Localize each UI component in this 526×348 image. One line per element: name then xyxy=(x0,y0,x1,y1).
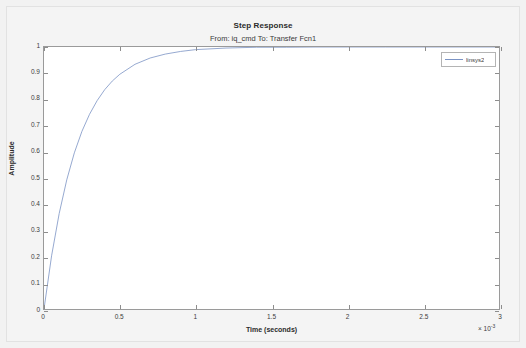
y-tick-mark xyxy=(44,73,48,74)
x-tick-mark xyxy=(425,47,426,51)
y-tick-label: 1 xyxy=(10,43,40,50)
y-tick-mark xyxy=(495,258,499,259)
y-axis-label: Amplitude xyxy=(8,129,15,189)
y-tick-mark xyxy=(495,205,499,206)
x-tick-mark xyxy=(501,305,502,309)
chart-subtitle: From: iq_cmd To: Transfer Fcn1 xyxy=(0,34,526,43)
x-tick-mark xyxy=(349,305,350,309)
x-tick-mark xyxy=(349,47,350,51)
y-tick-label: 0.5 xyxy=(10,175,40,182)
plot-area xyxy=(43,46,500,310)
y-tick-mark xyxy=(495,47,499,48)
x-tick-mark xyxy=(44,47,45,51)
y-tick-mark xyxy=(44,258,48,259)
y-tick-mark xyxy=(44,179,48,180)
y-tick-label: 0.1 xyxy=(10,280,40,287)
y-tick-mark xyxy=(495,232,499,233)
x-tick-mark xyxy=(273,47,274,51)
x-tick-mark xyxy=(44,305,45,309)
plot-inner xyxy=(44,47,499,309)
y-tick-mark xyxy=(44,153,48,154)
y-tick-mark xyxy=(495,126,499,127)
x-tick-label: 1.5 xyxy=(252,314,292,321)
step-response-curve xyxy=(44,47,499,309)
y-tick-mark xyxy=(44,232,48,233)
x-axis-exponent-power: -3 xyxy=(491,323,495,329)
y-tick-mark xyxy=(44,126,48,127)
x-axis-exponent: × 10-3 xyxy=(478,323,495,332)
x-tick-label: 0 xyxy=(23,314,63,321)
y-tick-mark xyxy=(495,153,499,154)
y-tick-mark xyxy=(495,285,499,286)
x-tick-label: 1 xyxy=(175,314,215,321)
x-tick-mark xyxy=(120,47,121,51)
x-tick-mark xyxy=(501,47,502,51)
y-tick-label: 0.4 xyxy=(10,201,40,208)
legend-line-sample xyxy=(445,59,463,60)
y-tick-label: 0.3 xyxy=(10,227,40,234)
legend[interactable]: linsys2 xyxy=(441,52,496,67)
x-axis-label: Time (seconds) xyxy=(43,326,500,333)
y-tick-mark xyxy=(495,179,499,180)
x-tick-mark xyxy=(273,305,274,309)
y-tick-mark xyxy=(495,73,499,74)
x-tick-label: 0.5 xyxy=(99,314,139,321)
y-tick-mark xyxy=(44,100,48,101)
y-tick-mark xyxy=(44,205,48,206)
y-tick-label: 0.2 xyxy=(10,254,40,261)
y-tick-label: 0.7 xyxy=(10,122,40,129)
x-tick-label: 3 xyxy=(480,314,520,321)
chart-title: Step Response xyxy=(0,21,526,30)
y-tick-label: 0.8 xyxy=(10,95,40,102)
y-tick-mark xyxy=(495,100,499,101)
x-tick-mark xyxy=(196,47,197,51)
y-tick-mark xyxy=(44,311,48,312)
x-tick-mark xyxy=(120,305,121,309)
x-axis-exponent-base: × 10 xyxy=(478,325,491,332)
figure-canvas: Step Response From: iq_cmd To: Transfer … xyxy=(0,0,526,348)
legend-label: linsys2 xyxy=(466,57,484,63)
x-tick-mark xyxy=(425,305,426,309)
y-tick-label: 0.9 xyxy=(10,69,40,76)
x-tick-label: 2.5 xyxy=(404,314,444,321)
y-tick-label: 0 xyxy=(10,307,40,314)
x-tick-mark xyxy=(196,305,197,309)
x-axis-tick-labels: 00.511.522.53 xyxy=(43,314,500,326)
y-tick-mark xyxy=(495,311,499,312)
y-tick-mark xyxy=(44,285,48,286)
y-tick-label: 0.6 xyxy=(10,148,40,155)
x-tick-label: 2 xyxy=(328,314,368,321)
